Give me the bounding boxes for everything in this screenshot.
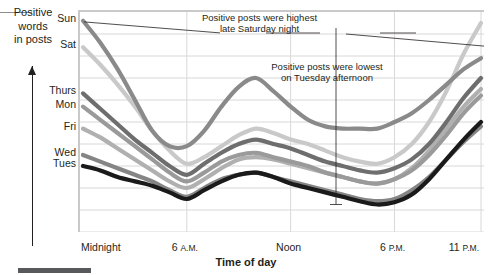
y-axis-tick-labels: SunSatThursMonFriWedTues (30, 0, 76, 275)
x-tick-1: 6 A.M. (172, 241, 198, 253)
x-tick-main: 6 (380, 241, 389, 253)
footer-rule (18, 268, 91, 273)
x-tick-main: 6 (172, 241, 181, 253)
x-tick-main: 11 (449, 241, 463, 253)
y-tick-tues: Tues (34, 158, 76, 169)
y-tick-fri: Fri (34, 121, 76, 132)
x-tick-period: P.M. (463, 243, 479, 253)
x-tick-0: Midnight (81, 241, 121, 253)
x-tick-4: 11 P.M. (449, 241, 479, 253)
annotation-highest-line-2: late Saturday night (152, 23, 367, 34)
x-tick-main: Noon (276, 241, 301, 253)
annotation-lowest-line-1: Positive posts were lowest (262, 61, 392, 72)
series-line-sun (83, 21, 481, 148)
annotation-lowest-line-2: on Tuesday afternoon (262, 72, 392, 83)
chart-svg (80, 12, 484, 232)
x-tick-period: A.M. (180, 243, 197, 253)
x-tick-period: P.M. (389, 243, 405, 253)
plot-area (78, 10, 484, 232)
y-tick-sat: Sat (34, 39, 76, 50)
x-tick-main: Midnight (81, 241, 121, 253)
annotation-highest-line-1: Positive posts were highest (152, 12, 367, 23)
chart-figure: Positive words in posts SunSatThursMonFr… (0, 0, 492, 275)
y-tick-sun: Sun (34, 13, 76, 24)
annotation-lowest: Positive posts were lowest on Tuesday af… (262, 61, 392, 83)
x-tick-3: 6 P.M. (380, 241, 405, 253)
y-tick-mon: Mon (34, 99, 76, 110)
x-axis-tick-labels: Midnight6 A.M.Noon6 P.M.11 P.M. (0, 241, 492, 257)
leader-highest-right (346, 34, 484, 46)
annotation-highest: Positive posts were highest late Saturda… (152, 12, 367, 34)
x-tick-2: Noon (276, 241, 301, 253)
x-axis-title: Time of day (0, 256, 492, 268)
series-line-sat (83, 23, 481, 164)
y-tick-thurs: Thurs (34, 85, 76, 96)
